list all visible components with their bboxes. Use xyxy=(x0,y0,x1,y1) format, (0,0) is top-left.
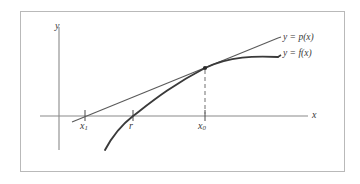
point-label-x0: x0 xyxy=(198,121,206,132)
tangent-label-leader xyxy=(278,37,281,38)
point-label-x0-subscript: 0 xyxy=(202,124,205,131)
point-label-x1-subscript: 1 xyxy=(84,124,87,131)
plot-canvas xyxy=(0,0,360,184)
point-label-r: r xyxy=(129,121,133,131)
function-label-leader xyxy=(278,55,281,57)
tangent-line-label: y = p(x) xyxy=(283,33,314,43)
tangent-line-p xyxy=(72,38,278,122)
function-curve-label: y = f(x) xyxy=(283,49,312,59)
y-axis-label: y xyxy=(55,21,59,31)
tangency-point-marker xyxy=(203,66,207,70)
x-axis-label: x xyxy=(312,110,316,120)
function-curve-f xyxy=(105,57,278,150)
point-label-x1: x1 xyxy=(80,121,88,132)
figure-root: y x x1 r x0 y = p(x) y = f(x) xyxy=(0,0,360,184)
